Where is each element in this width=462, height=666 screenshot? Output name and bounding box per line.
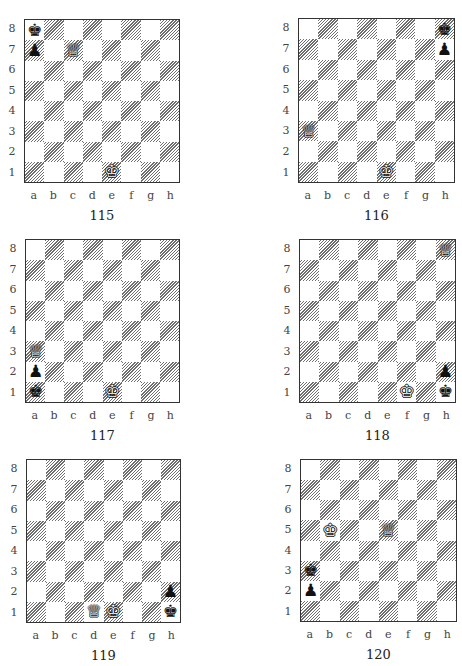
square-a5 xyxy=(27,521,46,541)
white-king-icon: ♔ xyxy=(105,603,120,620)
square-a7 xyxy=(300,260,319,280)
square-h7 xyxy=(161,480,180,500)
file-label: c xyxy=(337,189,357,202)
square-d2 xyxy=(358,362,377,382)
rank-label: 8 xyxy=(9,242,17,255)
white-king-icon: ♔ xyxy=(399,383,414,400)
rank-label: 8 xyxy=(10,462,18,475)
square-a1: ♚ xyxy=(26,382,45,402)
square-g3 xyxy=(417,561,436,581)
white-queen-icon: ♕ xyxy=(28,343,43,360)
square-g5 xyxy=(415,80,434,100)
square-a6 xyxy=(27,501,46,521)
square-c7 xyxy=(339,260,358,280)
square-c5 xyxy=(64,301,83,321)
black-king-icon: ♚ xyxy=(303,562,318,579)
square-g6 xyxy=(416,281,435,301)
square-f8 xyxy=(398,460,417,480)
square-g5 xyxy=(141,81,160,101)
rank-label: 2 xyxy=(282,145,290,158)
square-b3 xyxy=(45,341,64,361)
rank-label: 4 xyxy=(10,544,18,557)
diagram-number: 119 xyxy=(74,648,134,663)
square-b7 xyxy=(319,260,338,280)
square-h5 xyxy=(436,301,455,321)
square-h4 xyxy=(436,321,455,341)
square-f1 xyxy=(122,382,141,402)
square-e3 xyxy=(378,341,397,361)
square-h5 xyxy=(437,520,456,540)
square-g1 xyxy=(415,162,434,182)
square-e6 xyxy=(379,500,398,520)
square-f3 xyxy=(121,121,140,141)
square-c7 xyxy=(338,39,357,59)
square-h8 xyxy=(160,240,179,260)
square-c5 xyxy=(339,301,358,321)
square-g6 xyxy=(415,60,434,80)
rank-label: 5 xyxy=(10,524,18,537)
square-b6 xyxy=(46,501,65,521)
square-g2 xyxy=(142,582,161,602)
white-queen-icon: ♕ xyxy=(438,242,453,259)
square-d8 xyxy=(83,240,102,260)
square-b7 xyxy=(46,480,65,500)
square-h1: ♚ xyxy=(436,382,455,402)
rank-label: 2 xyxy=(284,584,292,597)
file-label: a xyxy=(298,189,318,202)
square-e4 xyxy=(103,321,122,341)
square-d8 xyxy=(83,20,102,40)
square-e3 xyxy=(104,561,123,581)
square-b1 xyxy=(320,601,339,621)
square-e1 xyxy=(379,601,398,621)
square-b5: ♔ xyxy=(320,520,339,540)
diagram-number: 115 xyxy=(72,208,132,223)
square-b3 xyxy=(320,561,339,581)
square-f4 xyxy=(398,541,417,561)
square-d4 xyxy=(359,541,378,561)
file-label: f xyxy=(122,409,141,422)
square-a7 xyxy=(299,39,318,59)
rank-label: 6 xyxy=(282,63,290,76)
square-f8 xyxy=(123,460,142,480)
square-h5 xyxy=(160,301,179,321)
square-b4 xyxy=(45,321,64,341)
file-label: e xyxy=(379,628,399,641)
square-d5 xyxy=(84,521,103,541)
square-a8: ♚ xyxy=(25,20,44,40)
rank-label: 2 xyxy=(8,145,16,158)
square-f4 xyxy=(396,101,415,121)
square-g4 xyxy=(142,541,161,561)
square-h4 xyxy=(160,321,179,341)
square-c8 xyxy=(340,460,359,480)
square-d7 xyxy=(359,480,378,500)
square-a4 xyxy=(301,541,320,561)
square-b8 xyxy=(320,460,339,480)
square-f5 xyxy=(123,521,142,541)
square-h4 xyxy=(435,101,454,121)
square-g3 xyxy=(141,121,160,141)
square-d2 xyxy=(83,142,102,162)
file-label: a xyxy=(25,409,44,422)
square-d2 xyxy=(84,582,103,602)
square-c7 xyxy=(340,480,359,500)
square-b5 xyxy=(46,521,65,541)
square-f4 xyxy=(121,101,140,121)
square-h4 xyxy=(161,541,180,561)
square-f2 xyxy=(121,142,140,162)
square-h2 xyxy=(437,581,456,601)
square-c4 xyxy=(64,101,83,121)
square-f6 xyxy=(121,61,140,81)
square-e7 xyxy=(377,39,396,59)
file-label: h xyxy=(437,628,457,641)
square-f8 xyxy=(121,20,140,40)
square-h2 xyxy=(160,142,179,162)
rank-label: 1 xyxy=(10,606,18,619)
chessboard: ♕♟♚♔ xyxy=(25,239,180,403)
square-c5 xyxy=(338,80,357,100)
file-label: b xyxy=(44,409,63,422)
square-e1: ♔ xyxy=(102,162,121,182)
square-b3 xyxy=(46,561,65,581)
square-d7 xyxy=(358,260,377,280)
square-h8 xyxy=(437,460,456,480)
square-a5 xyxy=(299,80,318,100)
